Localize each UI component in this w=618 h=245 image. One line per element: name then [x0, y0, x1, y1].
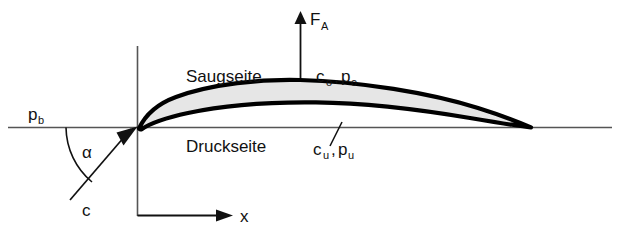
upper-side-label: Saugseite [186, 67, 262, 86]
lower-pressure-subscript: u [348, 149, 354, 161]
diagram-canvas: Saugseite Druckseite F A c o , p o c u ,… [0, 0, 618, 245]
ambient-pressure-label: p b [28, 105, 44, 126]
airfoil-diagram: Saugseite Druckseite F A c o , p o c u ,… [0, 0, 618, 245]
upper-velocity-symbol: c [316, 67, 325, 86]
lower-velocity-symbol: c [313, 140, 322, 159]
lower-side-label: Druckseite [186, 137, 266, 156]
x-axis-arrowhead-icon [216, 210, 233, 222]
upper-velocity-subscript: o [326, 76, 332, 88]
lower-pressure-symbol: p [338, 140, 347, 159]
upper-flow-comma: , [334, 67, 339, 86]
lower-flow-comma: , [331, 140, 336, 159]
upper-flow-label: c o , p o [316, 67, 357, 88]
upper-pressure-symbol: p [341, 67, 350, 86]
airfoil-body [139, 80, 531, 130]
inflow-velocity-label: c [82, 201, 91, 220]
angle-of-attack-label: α [82, 143, 92, 162]
lift-force-symbol: F [310, 10, 320, 29]
lower-flow-label: c u , p u [313, 140, 354, 161]
upper-pressure-subscript: o [351, 76, 357, 88]
x-axis-label: x [240, 207, 249, 226]
lift-force-arrowhead-icon [295, 11, 307, 24]
lower-velocity-subscript: u [323, 149, 329, 161]
ambient-pressure-subscript: b [38, 114, 44, 126]
lift-force-subscript: A [321, 20, 329, 32]
ambient-pressure-symbol: p [28, 105, 37, 124]
lift-force-label: F A [310, 10, 329, 32]
